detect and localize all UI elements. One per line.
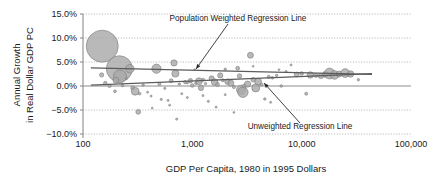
y-axis-title-line2: in Real Dollar GDP PC (24, 27, 35, 123)
bubble-marker (202, 95, 204, 97)
x-tick-label: 100,000 (395, 139, 428, 149)
annotation-leaders-group (196, 24, 300, 123)
y-tick-label: −5.0% (51, 105, 77, 115)
y-tick-labels-group: 15.0%10.0%5.0%0.0%−5.0%−10.0% (46, 9, 77, 139)
bubble-marker (218, 73, 223, 78)
annotation-arrowhead-population-weighted-regression-line (196, 64, 200, 69)
bubble-marker (125, 77, 127, 79)
bubble-marker (164, 87, 166, 89)
y-tick-label: 15.0% (51, 9, 77, 19)
bubble-marker (150, 95, 152, 97)
x-tick-label: 100 (75, 139, 90, 149)
bubble-marker (232, 85, 235, 88)
bubble-marker (113, 77, 119, 83)
bubble-marker (290, 64, 292, 66)
x-tick-label: 1,000 (181, 139, 204, 149)
annotation-leader-unweighted-regression-line (264, 83, 300, 123)
bubble-marker (191, 84, 195, 88)
bubble-marker (100, 73, 104, 77)
bubble-marker (121, 84, 124, 87)
bubble-marker (244, 81, 250, 87)
bubble-marker (151, 107, 153, 109)
annotation-leader-population-weighted-regression-line (196, 24, 228, 69)
bubble-marker (247, 52, 253, 58)
bubble-marker (160, 98, 162, 100)
bubble-marker (228, 80, 234, 86)
bubble-marker (167, 99, 169, 101)
chart-figure: 15.0%10.0%5.0%0.0%−5.0%−10.0% 1001,00010… (0, 0, 446, 178)
bubble-marker (204, 82, 206, 84)
bubble-marker (233, 112, 235, 114)
bubble-marker (198, 85, 203, 90)
x-tick-label: 10,000 (288, 139, 316, 149)
bubble-marker (238, 87, 248, 97)
bubble-marker (171, 60, 177, 66)
y-tick-label: 10.0% (51, 33, 77, 43)
bubble-marker (147, 91, 149, 93)
bubble-marker (207, 100, 209, 102)
bubble-marker (215, 106, 217, 108)
bubble-marker (252, 65, 254, 67)
annotation-label-population-weighted-regression-line: Population Weighted Regression Line (170, 14, 307, 23)
bubble-marker (305, 92, 308, 95)
bubble-marker (224, 68, 226, 70)
bubble-marker (275, 74, 277, 76)
bubble-marker (176, 118, 178, 120)
bubble-marker (172, 70, 179, 77)
bubble-marker (136, 110, 141, 115)
y-axis-title-line1: Annual Growth (11, 44, 22, 107)
bubble-marker (142, 84, 144, 86)
bubble-marker (270, 101, 272, 103)
bubble-marker (216, 83, 220, 87)
x-tick-labels-group: 1001,00010,000100,000 (75, 139, 427, 149)
bubble-chart: 15.0%10.0%5.0%0.0%−5.0%−10.0% 1001,00010… (0, 0, 446, 178)
bubble-marker (264, 98, 266, 100)
bubble-marker (260, 83, 263, 86)
bubble-marker (181, 93, 183, 95)
y-tick-label: −10.0% (46, 129, 77, 139)
bubble-marker (158, 83, 161, 86)
bubble-marker (169, 104, 171, 106)
bubble-marker (237, 74, 241, 78)
bubble-marker (131, 87, 139, 95)
bubble-marker (178, 83, 180, 85)
bubble-marker (224, 94, 226, 96)
bubble-marker (186, 97, 188, 99)
bubble-marker (357, 79, 359, 81)
y-tick-label: 5.0% (56, 57, 77, 67)
bubble-marker (114, 90, 117, 93)
bubble-marker (138, 92, 141, 95)
annotation-label-unweighted-regression-line: Unweighted Regression Line (248, 122, 353, 131)
y-tick-label: 0.0% (56, 81, 77, 91)
x-axis-title: GDP Per Capita, 1980 in 1995 Dollars (166, 163, 327, 174)
bubble-marker (278, 69, 280, 71)
bubble-marker (236, 66, 240, 70)
bubble-marker (280, 85, 283, 88)
